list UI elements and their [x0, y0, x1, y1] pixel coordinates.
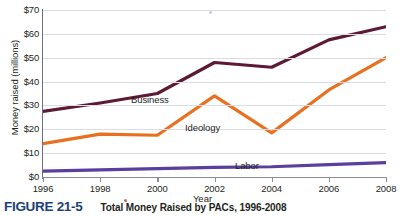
gridline — [43, 10, 386, 11]
y-tick-label: $20 — [24, 123, 39, 134]
gridline — [43, 34, 386, 35]
y-axis-tick-labels: $0$10$20$30$40$50$60$70 — [0, 0, 39, 196]
x-tick — [272, 177, 273, 182]
x-tick — [215, 177, 216, 182]
figure-container: $0$10$20$30$40$50$60$70 Money raised (mi… — [0, 0, 405, 217]
figure-title: Total Money Raised by PACs, 1996-2008 — [100, 200, 286, 215]
figure-number: FIGURE 21-5 — [4, 200, 82, 214]
y-tick-label: $50 — [24, 52, 39, 63]
series-line-labor — [43, 163, 386, 171]
gridline — [43, 153, 386, 154]
series-line-business — [43, 27, 386, 112]
line-chart: $0$10$20$30$40$50$60$70 Money raised (mi… — [0, 0, 405, 196]
scan-speck — [124, 199, 127, 202]
y-tick-label: $30 — [24, 99, 39, 110]
series-label-business: Business — [131, 94, 169, 105]
plot-area: Business Ideology Labor — [43, 10, 386, 177]
gridline — [43, 58, 386, 59]
y-tick-label: $40 — [24, 76, 39, 87]
x-tick — [100, 177, 101, 182]
gridline — [43, 105, 386, 106]
series-label-ideology: Ideology — [185, 122, 220, 133]
x-tick — [386, 177, 387, 182]
figure-caption: FIGURE 21-5 Total Money Raised by PACs, … — [0, 200, 405, 217]
gridline — [43, 82, 386, 83]
series-label-labor: Labor — [235, 160, 259, 171]
x-tick — [43, 177, 44, 182]
y-axis-title: Money raised (millions) — [9, 13, 20, 163]
x-tick — [329, 177, 330, 182]
y-tick-label: $60 — [24, 28, 39, 39]
y-tick-label: $10 — [24, 147, 39, 158]
x-tick — [157, 177, 158, 182]
scan-speck — [209, 11, 212, 14]
y-tick-label: $70 — [24, 4, 39, 15]
y-tick-label: $0 — [29, 171, 39, 182]
y-axis-line — [42, 9, 43, 179]
series-lines — [43, 10, 386, 177]
